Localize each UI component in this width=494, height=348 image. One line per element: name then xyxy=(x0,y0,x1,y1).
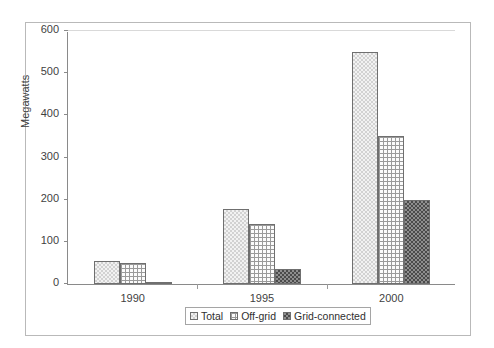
y-tick-label: 300 xyxy=(41,150,59,163)
legend-label: Off-grid xyxy=(241,310,276,322)
bar-group xyxy=(197,32,326,284)
light-dotted-swatch xyxy=(190,312,198,320)
bars-layer xyxy=(68,32,455,284)
x-tick-label: 1995 xyxy=(197,292,326,305)
plot-area: 0100200300400500600 199019952000 xyxy=(67,32,455,285)
y-tick-label: 500 xyxy=(41,65,59,78)
dark-checker-swatch xyxy=(283,312,291,320)
bar-grid-connected xyxy=(404,200,430,284)
y-tick-label: 200 xyxy=(41,192,59,205)
bar-group xyxy=(327,32,456,284)
y-tick-label: 0 xyxy=(53,276,59,289)
x-tick-mark xyxy=(327,284,328,289)
top-gridline xyxy=(68,30,455,31)
legend-label: Total xyxy=(201,310,223,322)
bar-grid-connected xyxy=(275,269,301,284)
cross-hatch-swatch xyxy=(230,312,238,320)
y-tick-label: 100 xyxy=(41,234,59,247)
bar-total xyxy=(94,261,120,284)
bar-total xyxy=(352,52,378,284)
x-tick-label: 1990 xyxy=(68,292,197,305)
chart-legend: TotalOff-gridGrid-connected xyxy=(185,307,371,325)
bar-off-grid xyxy=(120,263,146,284)
bar-total xyxy=(223,209,249,284)
chart-figure: Megawatts 0100200300400500600 1990199520… xyxy=(0,0,494,348)
legend-label: Grid-connected xyxy=(294,310,366,322)
y-tick-label: 600 xyxy=(41,23,59,36)
legend-item: Off-grid xyxy=(230,310,276,322)
legend-item: Grid-connected xyxy=(283,310,366,322)
legend-item: Total xyxy=(190,310,223,322)
bar-off-grid xyxy=(378,136,404,284)
y-axis-title: Megawatts xyxy=(19,75,32,128)
bar-off-grid xyxy=(249,224,275,284)
y-tick-label: 400 xyxy=(41,107,59,120)
bar-group xyxy=(68,32,197,284)
x-tick-mark xyxy=(197,284,198,289)
bar-grid-connected xyxy=(146,282,172,284)
x-tick-label: 2000 xyxy=(327,292,456,305)
